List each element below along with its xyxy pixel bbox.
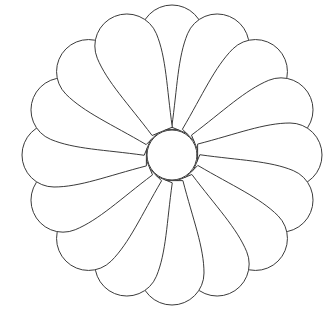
chrysanthemum-emblem (0, 0, 335, 316)
center-disc (147, 130, 197, 180)
